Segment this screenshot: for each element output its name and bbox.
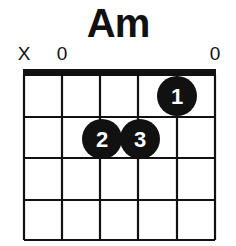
chord-diagram: 1 2 3 [0,0,236,246]
finger-label-2: 2 [96,127,108,152]
finger-dot-3: 3 [120,119,160,159]
finger-dot-1: 1 [157,76,197,116]
nut [23,69,216,76]
finger-label-3: 3 [134,127,146,152]
finger-label-1: 1 [171,84,183,109]
finger-dot-2: 2 [82,119,122,159]
